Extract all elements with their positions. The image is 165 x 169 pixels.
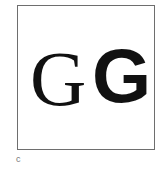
serif-g-glyph: G [30, 40, 86, 118]
panel-label: c [16, 155, 21, 164]
figure-frame: G G [17, 5, 155, 150]
sans-g-glyph: G [92, 38, 151, 114]
